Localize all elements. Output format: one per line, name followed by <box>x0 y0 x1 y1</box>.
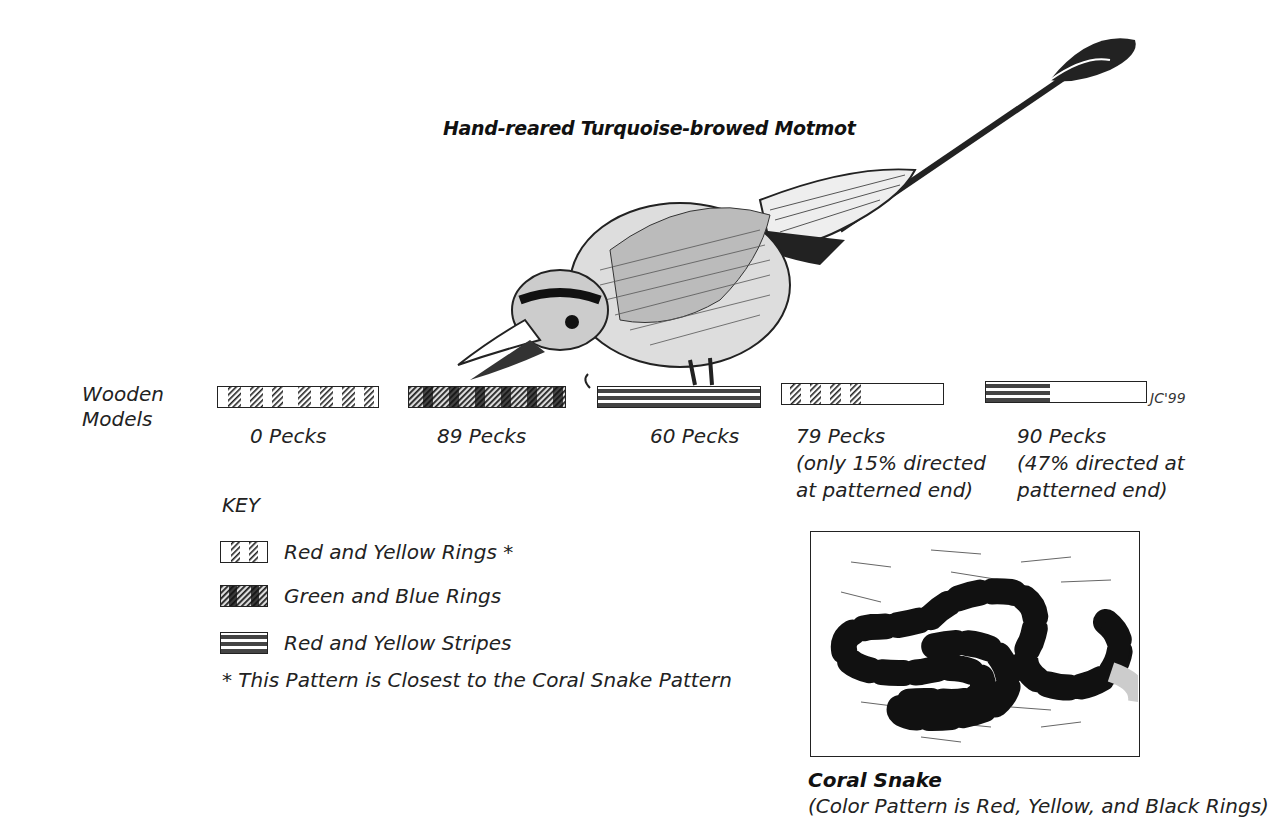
wooden-models-label-line2: Models <box>82 407 164 432</box>
artist-signature: JC'99 <box>1150 390 1186 406</box>
model-red-yellow-rings <box>217 386 379 408</box>
model-2-pecks: 89 Pecks <box>437 423 526 450</box>
model-4-note-line1: (only 15% directed <box>796 450 986 477</box>
key-item-label: Red and Yellow Stripes <box>284 631 511 655</box>
key-item-red-yellow-rings: Red and Yellow Rings * <box>220 540 513 564</box>
model-red-yellow-stripes-half <box>985 381 1147 403</box>
key-footnote: * This Pattern is Closest to the Coral S… <box>222 668 732 692</box>
model-4-pecks: 79 Pecks (only 15% directed at patterned… <box>796 423 986 504</box>
motmot-bird-illustration <box>455 20 1145 390</box>
stripes-pattern <box>598 387 761 408</box>
model-green-blue-rings <box>408 386 566 408</box>
model-5-note-line1: (47% directed at <box>1017 450 1185 477</box>
model-1-pecks: 0 Pecks <box>250 423 326 450</box>
key-item-label: Red and Yellow Rings * <box>284 540 513 564</box>
coral-snake-illustration-frame <box>810 531 1140 757</box>
coral-snake-illustration <box>811 532 1138 755</box>
red-yellow-rings-swatch <box>220 541 268 563</box>
stripes-pattern <box>986 382 1147 403</box>
model-5-pecks-count: 90 Pecks <box>1017 423 1185 450</box>
key-item-red-yellow-stripes: Red and Yellow Stripes <box>220 631 511 655</box>
coral-snake-caption: (Color Pattern is Red, Yellow, and Black… <box>808 794 1269 818</box>
model-5-note-line2: patterned end) <box>1017 477 1185 504</box>
wooden-models-label-line1: Wooden <box>82 382 164 407</box>
key-title: KEY <box>222 493 260 517</box>
wooden-models-label: Wooden Models <box>82 382 164 432</box>
green-blue-rings-swatch <box>220 585 268 607</box>
rings-pattern <box>218 387 379 408</box>
rings-pattern <box>409 387 566 408</box>
model-5-pecks: 90 Pecks (47% directed at patterned end) <box>1017 423 1185 504</box>
model-4-note-line2: at patterned end) <box>796 477 986 504</box>
key-item-green-blue-rings: Green and Blue Rings <box>220 584 501 608</box>
coral-snake-title: Coral Snake <box>808 768 942 792</box>
model-4-pecks-count: 79 Pecks <box>796 423 986 450</box>
key-item-label: Green and Blue Rings <box>284 584 501 608</box>
model-red-yellow-rings-half <box>781 383 944 405</box>
model-red-yellow-stripes <box>597 386 761 408</box>
model-3-pecks: 60 Pecks <box>650 423 739 450</box>
rings-pattern <box>782 384 944 405</box>
red-yellow-stripes-swatch <box>220 632 268 654</box>
